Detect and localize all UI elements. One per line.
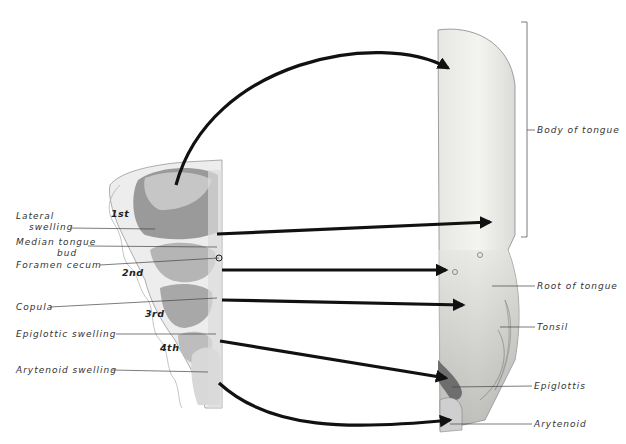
label-arytenoid-swelling: Arytenoid swelling <box>16 365 117 375</box>
arch-label-2nd: 2nd <box>122 267 144 278</box>
adult-tongue <box>438 29 519 432</box>
arrow-epiglottic-to-epiglottis <box>220 341 446 378</box>
label-tonsil: Tonsil <box>537 322 568 332</box>
tongue-development-diagram: 1st 2nd 3rd 4th Lateral swelling Median … <box>0 0 626 444</box>
label-epiglottic-swelling: Epiglottic swelling <box>16 329 117 339</box>
arrow-copula-to-root <box>222 300 463 305</box>
label-body-of-tongue: Body of tongue <box>537 125 620 135</box>
arch-label-3rd: 3rd <box>145 308 165 319</box>
label-foramen-cecum: Foramen cecum <box>16 260 102 270</box>
label-lateral-swelling-line1: Lateral <box>16 211 54 221</box>
diagram-drawing <box>0 0 626 444</box>
label-root-of-tongue: Root of tongue <box>537 281 618 291</box>
label-median-tongue-bud-line1: Median tongue <box>16 237 96 247</box>
arch-label-1st: 1st <box>111 208 129 219</box>
label-copula: Copula <box>16 302 53 312</box>
label-arytenoid: Arytenoid <box>534 419 587 429</box>
arch-label-4th: 4th <box>160 342 179 353</box>
label-lateral-swelling-line2: swelling <box>29 222 74 232</box>
label-median-tongue-bud-line2: bud <box>57 248 77 258</box>
label-epiglottis: Epiglottis <box>534 381 586 391</box>
arrow-arytenoid-to-arytenoid <box>219 383 450 425</box>
